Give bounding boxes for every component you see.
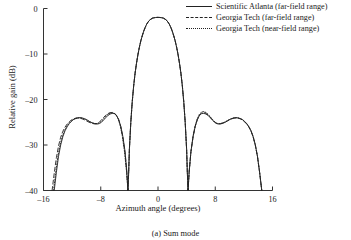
y-tick-label: 0 xyxy=(33,5,37,14)
series-line-dashed xyxy=(52,17,262,190)
legend-item-georgia-tech-far-field: Georgia Tech (far-field range) xyxy=(186,12,351,23)
y-tick-label: –20 xyxy=(24,96,37,105)
x-axis-ticks: –16–80816 xyxy=(36,187,276,204)
series-line-dotted xyxy=(54,17,262,190)
chart-legend: Scientific Atlanta (far-field range) Geo… xyxy=(186,1,351,34)
x-axis-title: Azimuth angle (degrees) xyxy=(43,203,273,213)
y-tick-label: –40 xyxy=(24,187,37,196)
legend-label: Georgia Tech (near-field range) xyxy=(216,24,319,34)
legend-line-solid-icon xyxy=(186,2,212,11)
y-tick-label: –10 xyxy=(24,50,37,59)
legend-line-dotted-icon xyxy=(186,24,212,33)
y-axis-title: Relative gain (dB) xyxy=(7,37,17,157)
plot-axes xyxy=(44,9,273,191)
legend-item-scientific-atlanta: Scientific Atlanta (far-field range) xyxy=(186,1,351,12)
y-tick-label: –30 xyxy=(24,141,37,150)
legend-line-dashed-icon xyxy=(186,13,212,22)
legend-label: Scientific Atlanta (far-field range) xyxy=(216,2,327,12)
figure-caption: (a) Sum mode xyxy=(0,229,351,238)
legend-label: Georgia Tech (far-field range) xyxy=(216,13,314,23)
legend-item-georgia-tech-near-field: Georgia Tech (near-field range) xyxy=(186,23,351,34)
series-line-solid xyxy=(54,17,262,190)
figure-sum-mode-pattern: 0–10–20–30–40 –16–80816 Azimuth angle (d… xyxy=(0,0,351,240)
data-series-group xyxy=(52,17,262,190)
y-axis-ticks: 0–10–20–30–40 xyxy=(24,5,47,196)
